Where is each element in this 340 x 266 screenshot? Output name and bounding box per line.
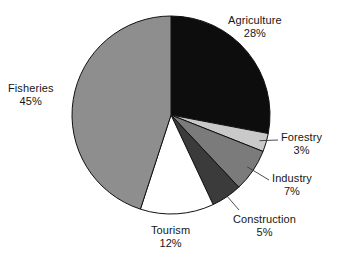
pie-label-agriculture-value: 28% bbox=[228, 27, 282, 40]
pie-label-forestry-name: Forestry bbox=[281, 131, 322, 144]
pie-label-forestry: Forestry 3% bbox=[281, 131, 322, 156]
pie-label-tourism-value: 12% bbox=[151, 237, 190, 250]
pie-label-fisheries: Fisheries 45% bbox=[8, 82, 54, 107]
pie-label-forestry-value: 3% bbox=[281, 144, 322, 157]
pie-label-fisheries-value: 45% bbox=[8, 95, 54, 108]
pie-label-agriculture-name: Agriculture bbox=[228, 14, 282, 27]
pie-label-construction-value: 5% bbox=[233, 226, 296, 239]
pie-label-industry: Industry 7% bbox=[272, 172, 312, 197]
pie-slices-group bbox=[72, 16, 270, 214]
pie-label-industry-value: 7% bbox=[272, 185, 312, 198]
pie-label-tourism-name: Tourism bbox=[151, 224, 190, 237]
pie-label-construction-name: Construction bbox=[233, 213, 296, 226]
pie-label-agriculture: Agriculture 28% bbox=[228, 14, 282, 39]
pie-label-fisheries-name: Fisheries bbox=[8, 82, 54, 95]
pie-label-construction: Construction 5% bbox=[233, 213, 296, 238]
pie-label-industry-name: Industry bbox=[272, 172, 312, 185]
pie-label-tourism: Tourism 12% bbox=[151, 224, 190, 249]
pie-chart: Agriculture 28% Forestry 3% Industry 7% … bbox=[0, 0, 340, 266]
